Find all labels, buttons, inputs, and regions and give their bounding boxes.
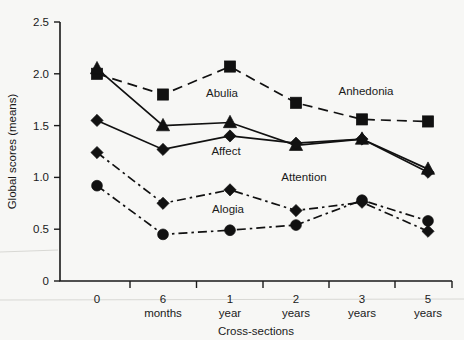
data-point [356, 114, 367, 125]
x-tick-label: 0 [94, 293, 100, 305]
data-point [290, 204, 302, 216]
series-label-alogia: Alogia [212, 203, 245, 215]
chart-figure: 00.51.01.52.02.5 AbuliaAnhedoniaAffectAt… [0, 0, 464, 340]
x-tick-label: 3 [359, 293, 365, 305]
y-tick-label: 2.5 [33, 16, 49, 28]
chart-canvas: 00.51.01.52.02.5 AbuliaAnhedoniaAffectAt… [0, 0, 464, 340]
data-point [92, 180, 103, 191]
data-point [223, 115, 236, 127]
data-point [422, 116, 433, 127]
y-tick-label: 1.0 [33, 171, 49, 183]
x-tick-label-unit: months [144, 307, 182, 319]
series-label-abulia: Abulia [206, 87, 239, 99]
data-point [158, 229, 169, 240]
data-point [422, 225, 434, 237]
x-tick-label: 1 [227, 293, 233, 305]
data-point [90, 61, 103, 73]
data-point [291, 220, 302, 231]
data-point [225, 225, 236, 236]
series-attention [91, 146, 434, 237]
data-point [357, 195, 368, 206]
y-tick-label: 0.5 [33, 223, 49, 235]
y-axis-title: Global scores (means) [6, 93, 18, 209]
data-point [224, 184, 236, 196]
data-point [423, 216, 434, 227]
data-point [224, 61, 235, 72]
series-label-affect: Affect [211, 145, 241, 157]
y-tick-label: 1.5 [33, 120, 49, 132]
x-tick-label: 5 [425, 293, 431, 305]
x-tick-label-unit: years [414, 307, 442, 319]
x-tick-label-unit: years [282, 307, 310, 319]
data-point [157, 197, 169, 209]
series-abulia [90, 61, 434, 174]
series-affect [91, 114, 434, 178]
y-tick-label: 2.0 [33, 68, 49, 80]
axis-labels-layer: 06months1year2years3years5yearsCross-sec… [6, 93, 442, 337]
x-tick-label-unit: years [348, 307, 376, 319]
x-axis-title: Cross-sections [218, 325, 294, 337]
x-tick-label: 6 [160, 293, 166, 305]
series-alogia [92, 180, 434, 239]
x-tick-label-unit: year [219, 307, 242, 319]
data-point [157, 143, 169, 155]
data-point [91, 114, 103, 126]
series-label-attention: Attention [281, 171, 326, 183]
x-tick-label: 2 [293, 293, 299, 305]
data-point [290, 97, 301, 108]
data-point [157, 89, 168, 100]
series-label-anhedonia: Anhedonia [339, 85, 395, 97]
y-tick-label: 0 [43, 275, 49, 287]
axis-lines [60, 22, 452, 281]
series-line [97, 186, 428, 235]
series-line [97, 153, 428, 232]
data-point [224, 130, 236, 142]
